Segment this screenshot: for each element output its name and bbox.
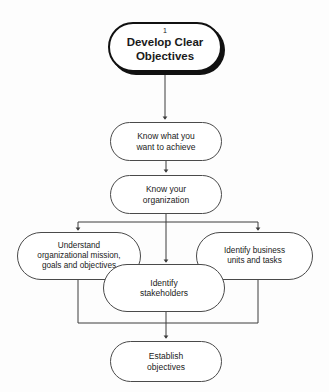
node-label: Establish objectives (143, 351, 189, 372)
node-know-your-organization[interactable]: Know your organization (110, 175, 222, 214)
node-label: Identify business units and tasks (220, 246, 289, 266)
node-establish-objectives[interactable]: Establish objectives (110, 341, 222, 382)
node-label: Understand organizational mission, goals… (33, 241, 124, 271)
flowchart-canvas: 1 Develop Clear Objectives Know what you… (0, 0, 329, 392)
step-number-badge: 1 (163, 27, 167, 34)
node-label: Develop Clear Objectives (123, 36, 208, 63)
node-label: Identify stakeholders (136, 278, 192, 299)
node-identify-stakeholders[interactable]: Identify stakeholders (103, 264, 225, 312)
node-know-what-you-want-to-achieve[interactable]: Know what you want to achieve (110, 122, 222, 161)
node-label: Know your organization (139, 184, 193, 205)
node-develop-clear-objectives[interactable]: 1 Develop Clear Objectives (108, 22, 222, 72)
node-label: Know what you want to achieve (132, 131, 199, 152)
